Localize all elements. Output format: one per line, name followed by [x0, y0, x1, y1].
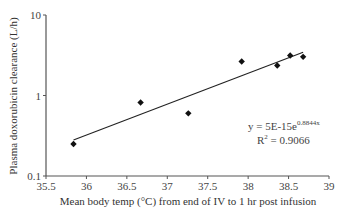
- data-point-marker: [137, 99, 143, 105]
- x-tick-label: 37: [162, 180, 174, 192]
- equation-exponent: 0.8844x: [297, 119, 320, 127]
- data-points: [70, 52, 306, 147]
- x-tick-label: 37.5: [198, 180, 218, 192]
- x-tick-label: 35.5: [36, 180, 56, 192]
- r-squared: R2 = 0.9066: [257, 133, 310, 146]
- chart: 0.1110 35.53636.53737.53838.539 Plasma d…: [0, 0, 347, 215]
- y-axis: 0.1110: [27, 9, 46, 182]
- data-point-marker: [185, 110, 191, 116]
- equation-base: y = 5E-15e: [248, 120, 297, 132]
- r2-value: = 0.9066: [268, 134, 310, 146]
- x-axis: 35.53636.53737.53838.539: [36, 176, 335, 192]
- y-tick-label: 10: [30, 9, 42, 21]
- y-axis-title: Plasma doxorubicin clearance (L/h): [7, 17, 20, 175]
- y-tick-label: 1: [36, 90, 42, 102]
- x-tick-label: 38.5: [279, 180, 299, 192]
- x-axis-title: Mean body temp (°C) from end of IV to 1 …: [60, 195, 317, 208]
- x-tick-label: 36.5: [117, 180, 137, 192]
- data-point-marker: [300, 54, 306, 60]
- x-tick-label: 36: [81, 180, 93, 192]
- trendline-equation: y = 5E-15e0.8844x: [248, 119, 320, 132]
- x-tick-label: 39: [324, 180, 336, 192]
- x-tick-label: 38: [243, 180, 255, 192]
- data-point-marker: [70, 141, 76, 147]
- data-point-marker: [238, 58, 244, 64]
